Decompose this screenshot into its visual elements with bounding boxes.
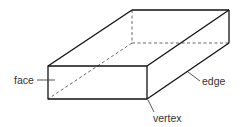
leader-lines — [37, 72, 200, 112]
vertex-leader-line — [148, 100, 154, 112]
edge-bottom-right-diagonal — [147, 43, 229, 99]
front-face — [48, 66, 147, 99]
edge-top-right-diagonal — [147, 10, 229, 66]
edge-leader-line — [188, 72, 200, 81]
diagram-canvas: face edge vertex — [0, 0, 241, 127]
vertex-label: vertex — [153, 112, 182, 124]
face-label: face — [14, 74, 34, 86]
edge-label: edge — [202, 75, 226, 87]
cuboid-diagram: face edge vertex — [0, 0, 241, 127]
hidden-edge-bottom-diagonal — [48, 43, 132, 99]
edge-top-left-diagonal — [48, 10, 132, 66]
